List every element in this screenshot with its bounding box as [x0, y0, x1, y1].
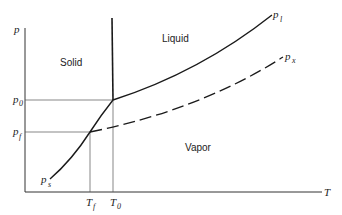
svg-text:p: p	[40, 173, 47, 185]
svg-text:T: T	[110, 196, 117, 208]
svg-text:s: s	[48, 180, 51, 189]
supercooled-liquid-curve	[90, 57, 283, 132]
px-curve-label: p x	[284, 50, 296, 65]
pf-tick-label: p f	[12, 125, 23, 141]
svg-text:x: x	[291, 56, 296, 65]
svg-text:0: 0	[19, 99, 23, 108]
melting-curve	[112, 18, 113, 100]
svg-text:0: 0	[117, 202, 121, 211]
svg-text:p: p	[12, 93, 19, 105]
svg-text:p: p	[284, 50, 291, 62]
vapor-region-label: Vapor	[185, 142, 212, 153]
sublimation-curve	[50, 100, 113, 179]
pl-curve-label: p l	[272, 8, 283, 24]
p0-tick-label: p 0	[12, 93, 23, 108]
x-axis-label: T	[324, 186, 331, 198]
ps-curve-label: p s	[40, 173, 51, 189]
svg-text:p: p	[12, 125, 19, 137]
y-axis-label: p	[13, 23, 20, 35]
t0-tick-label: T 0	[110, 196, 121, 211]
svg-text:T: T	[86, 196, 93, 208]
phase-diagram: p T Solid Liquid Vapor p l p x p s p 0 p…	[0, 0, 342, 215]
svg-text:f: f	[19, 132, 23, 141]
tf-tick-label: T f	[86, 196, 97, 211]
svg-text:l: l	[280, 15, 283, 24]
svg-text:p: p	[272, 8, 279, 20]
svg-text:f: f	[93, 202, 97, 211]
vaporization-curve	[113, 15, 272, 100]
solid-region-label: Solid	[60, 57, 82, 68]
liquid-region-label: Liquid	[162, 33, 189, 44]
